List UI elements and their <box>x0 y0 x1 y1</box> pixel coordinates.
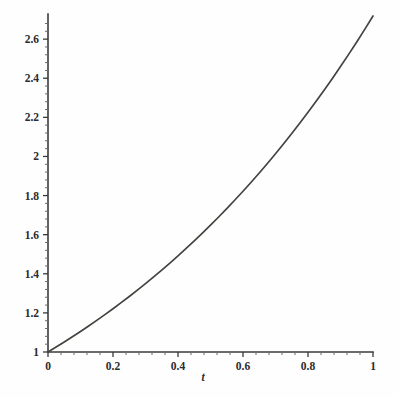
x-tick-label: 1 <box>370 360 376 372</box>
y-tick-label: 1.8 <box>25 190 40 202</box>
vertical-axis-tick-labels: 11.21.41.61.822.22.42.6 <box>25 33 40 358</box>
x-tick-label: 0.2 <box>106 360 121 372</box>
y-tick-label: 1 <box>33 346 39 358</box>
x-tick-label: 0.8 <box>301 360 316 372</box>
y-tick-label: 2.2 <box>25 111 40 123</box>
x-tick-label: 0.6 <box>236 360 251 372</box>
plot-canvas: 11.21.41.61.822.22.42.6 00.20.40.60.81 t <box>0 0 399 398</box>
x-tick-label: 0 <box>45 360 51 372</box>
chart-page: 11.21.41.61.822.22.42.6 00.20.40.60.81 t <box>0 0 399 398</box>
x-tick-label: 0.4 <box>171 360 186 372</box>
y-tick-label: 2.4 <box>25 72 40 84</box>
y-tick-label: 2 <box>33 150 39 162</box>
y-tick-label: 1.4 <box>25 268 40 280</box>
y-tick-label: 2.6 <box>25 33 40 45</box>
y-tick-label: 1.2 <box>25 307 40 319</box>
plot-background <box>0 0 399 398</box>
y-tick-label: 1.6 <box>25 229 40 241</box>
